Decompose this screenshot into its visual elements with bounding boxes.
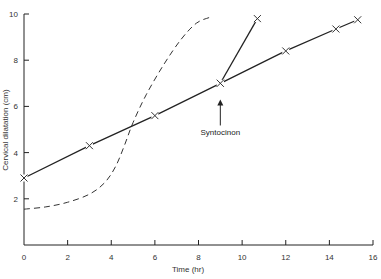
annotation-layer: Syntocinon [201,99,241,137]
partogram-chart: 2468100246810121416 Syntocinon Time (hr)… [0,0,381,279]
x-tick-label: 14 [325,253,334,262]
axes: 2468100246810121416 [9,10,378,262]
progress-line [24,20,358,178]
y-tick-label: 2 [14,195,19,204]
x-tick-label: 2 [65,253,70,262]
x-tick-label: 12 [281,253,290,262]
arrowhead-icon [217,99,223,105]
y-tick-label: 4 [14,149,19,158]
x-marker-icon [86,142,93,149]
y-axis-label: Cervical dilatation (cm) [1,89,10,171]
x-axis-label: Time (hr) [172,265,204,274]
x-marker-icon [354,16,361,23]
y-tick-label: 6 [14,102,19,111]
x-tick-label: 10 [238,253,247,262]
x-marker-icon [217,80,224,87]
x-marker-icon [21,175,28,182]
x-marker-icon [151,112,158,119]
x-marker-icon [332,26,339,33]
syntocinon-annotation: Syntocinon [201,128,241,137]
x-tick-label: 4 [109,253,114,262]
normal-labour-curve [24,17,209,209]
series-layer [21,15,362,209]
y-tick-label: 10 [9,10,18,19]
x-tick-label: 6 [153,253,158,262]
x-tick-label: 0 [22,253,27,262]
x-tick-label: 16 [369,253,378,262]
x-marker-icon [282,47,289,54]
y-tick-label: 8 [14,56,19,65]
x-marker-icon [254,15,261,22]
x-tick-label: 8 [196,253,201,262]
